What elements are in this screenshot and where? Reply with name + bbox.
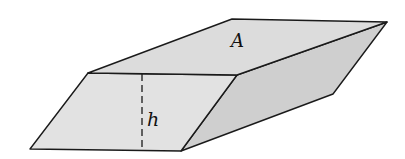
- oblique-prism-diagram: [0, 0, 405, 159]
- area-label: A: [231, 30, 244, 51]
- height-label: h: [147, 108, 159, 130]
